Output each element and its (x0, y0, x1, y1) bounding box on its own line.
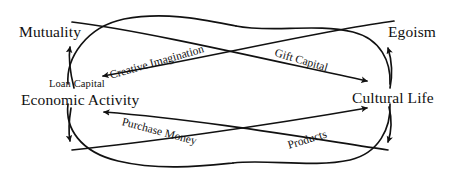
node-label-egoism: Egoism (388, 24, 436, 40)
outer-arc-upper-left (68, 16, 236, 84)
node-label-economic-activity: Economic Activity (21, 92, 139, 108)
lemniscate-diagram: Mutuality Egoism Loan Capital Economic A… (0, 0, 461, 187)
node-label-mutuality: Mutuality (19, 24, 81, 40)
node-label-cultural-life: Cultural Life (352, 90, 434, 106)
node-label-loan-capital: Loan Capital (49, 79, 105, 90)
